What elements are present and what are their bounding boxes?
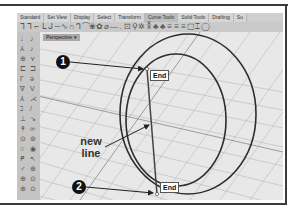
line-segment-icon[interactable]: — <box>110 22 117 32</box>
end-snap-label-start: End <box>150 70 169 81</box>
tab-curve-tools[interactable]: Curve Tools <box>145 13 178 22</box>
callout-1: 1 <box>56 55 70 69</box>
tool-revolve-icon[interactable]: V <box>30 85 35 92</box>
tool-sweep-icon[interactable]: ⅄ <box>20 95 24 103</box>
tool-curve-icon[interactable]: ⅄ <box>20 45 24 53</box>
tool-loft-icon[interactable]: ∇ <box>20 85 25 93</box>
tool-boolean-icon[interactable]: ℷ <box>20 105 23 113</box>
tab-transform[interactable]: Transform <box>115 13 145 22</box>
frame-bottom-border <box>0 203 287 205</box>
tool-text-icon[interactable]: ↖ <box>30 155 36 163</box>
tool-polygon-icon[interactable]: ⊐ <box>30 65 36 73</box>
tool-polyline-icon[interactable]: ♪ <box>30 35 34 42</box>
chevron-down-icon: ▾ <box>74 34 77 40</box>
insert-knot-icon[interactable]: ⁑ <box>145 22 152 32</box>
end-snap-point <box>155 192 158 195</box>
tab-set-view[interactable]: Set View <box>44 13 71 22</box>
callout-2: 2 <box>72 180 86 194</box>
blend-curve-icon[interactable]: ⌐ <box>33 22 40 32</box>
extend-arc-icon[interactable]: ⌒ <box>82 22 89 32</box>
tool-block-icon[interactable]: ⊕ <box>30 165 36 173</box>
layers-icon-2[interactable]: ≡ <box>173 22 180 32</box>
box-icon[interactable]: ▢ <box>187 22 194 32</box>
start-snap-point <box>145 67 148 70</box>
circle-icon[interactable]: ◯ <box>201 22 208 32</box>
simplify-icon[interactable]: ⌀ <box>103 22 110 32</box>
tool-array-icon[interactable]: ◉ <box>30 145 36 153</box>
curve-arc-icon[interactable]: ∿ <box>61 22 68 32</box>
tool-point-icon[interactable]: ↓ <box>20 35 24 42</box>
layers-icon-3[interactable]: ≡ <box>180 22 187 32</box>
perspective-viewport[interactable]: Perspective ▾ 1 2 End End new line <box>40 32 283 200</box>
tool-extrude-icon[interactable]: ə <box>30 75 34 82</box>
adjust-blend-icon[interactable]: ∽ <box>54 22 61 32</box>
end-snap-label-end: End <box>160 182 179 193</box>
tool-interp-icon[interactable]: ♪ <box>30 45 34 52</box>
tool-surface-icon[interactable]: Γ <box>20 75 24 82</box>
curve-tools-icon-row: ᒣ ᒣ ⌐ ᒪ ᒍ ∽ ∿ ∩ ᒉ ⌒ ❀ ✿ ⌀ — . ⊡ ⚲ ✲ ⁑ ♣ … <box>17 22 283 32</box>
connect-curve-icon[interactable]: ᒪ <box>40 22 47 32</box>
tab-su[interactable]: Su <box>234 13 247 22</box>
tool-mirror-icon[interactable]: ○ <box>20 145 24 152</box>
fillet-curve-icon[interactable]: ᒣ <box>19 22 26 32</box>
annotation-line: line <box>76 147 106 159</box>
tool-circle-icon[interactable]: ⊕ <box>20 55 26 63</box>
rebuild-icon[interactable]: ❀ <box>89 22 96 32</box>
edit-points-icon[interactable]: ⊡ <box>124 22 131 32</box>
annotation-new: new <box>76 135 106 147</box>
point-on-icon[interactable]: ⚲ <box>131 22 138 32</box>
callout-2-arrow <box>86 187 153 193</box>
tab-display[interactable]: Display <box>71 13 94 22</box>
smooth-icon[interactable]: ♣ <box>159 22 166 32</box>
tab-standard[interactable]: Standard <box>17 13 44 22</box>
tool-sweep2-icon[interactable]: ⋌ <box>30 95 37 103</box>
tool-join-icon[interactable]: ↘ <box>30 115 36 123</box>
extend-curve-icon[interactable]: ᒉ <box>75 22 82 32</box>
tool-trim-icon[interactable]: ⊥ <box>20 115 26 123</box>
tool-render-icon[interactable]: ⊙ <box>30 175 36 183</box>
outer-ellipse-curve <box>120 34 256 194</box>
viewport-label[interactable]: Perspective ▾ <box>43 34 80 41</box>
tool-analyze-icon[interactable]: ⊕ <box>20 175 26 183</box>
tool-misc2-icon[interactable]: ⊙ <box>30 185 36 193</box>
left-toolbar: ↓ ♪ ⅄ ♪ ⊕ ⋎ ⊏ ⊐ Γ ə ∇ V ⅄ ⋌ ℷ / ⊥ ↘ ↟ ∞ … <box>17 32 40 200</box>
handlebar-icon[interactable]: ✲ <box>138 22 145 32</box>
split-icon[interactable]: . <box>117 22 124 32</box>
hair-icon[interactable]: ♣ <box>152 22 159 32</box>
tab-select[interactable]: Select <box>94 13 115 22</box>
viewport-name: Perspective <box>46 34 72 40</box>
tool-hatch-icon[interactable]: ♂ <box>20 165 25 172</box>
tool-rotate-icon[interactable]: ⊙ <box>20 135 26 143</box>
tool-explode-icon[interactable]: ↟ <box>20 125 26 133</box>
offset-curve-icon[interactable]: ∩ <box>68 22 75 32</box>
tool-arc-icon[interactable]: ⋎ <box>30 55 35 63</box>
match-curve-icon[interactable]: ᒍ <box>47 22 54 32</box>
tool-scale-icon[interactable]: ⊚ <box>30 135 36 143</box>
tab-drafting[interactable]: Drafting <box>209 13 234 22</box>
fair-icon[interactable]: ✿ <box>96 22 103 32</box>
tool-move-icon[interactable]: ∞ <box>30 125 35 132</box>
rhino-screenshot: Standard Set View Display Select Transfo… <box>17 13 283 200</box>
viewport-scene <box>40 32 283 200</box>
tab-solid-tools[interactable]: Solid Tools <box>178 13 209 22</box>
bracket-icon[interactable]: ⌶ <box>194 22 201 32</box>
frame-top-border <box>0 4 288 6</box>
frame-right-border <box>285 4 287 205</box>
chamfer-curve-icon[interactable]: ᒣ <box>26 22 33 32</box>
tool-split-icon[interactable]: / <box>30 105 32 112</box>
tool-rect-icon[interactable]: ⊏ <box>20 65 26 73</box>
toolbar-tabs: Standard Set View Display Select Transfo… <box>17 13 283 22</box>
tool-misc-icon[interactable]: ⊕ <box>20 185 26 193</box>
layers-icon-1[interactable]: ≡ <box>166 22 173 32</box>
tool-dim-icon[interactable]: ᑭ <box>20 155 24 163</box>
